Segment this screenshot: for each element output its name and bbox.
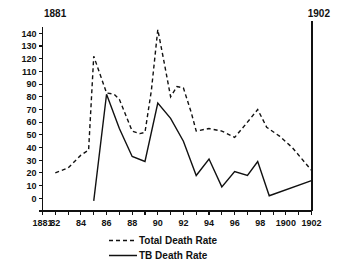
axes-group <box>43 21 312 211</box>
chart-container: 18811902 1401301201109080706050403020100… <box>0 0 344 278</box>
x-axis-tick-label: 82 <box>50 218 60 228</box>
corner-label-end-year: 1902 <box>308 8 331 19</box>
corner-labels-group: 18811902 <box>44 8 330 19</box>
y-axis-tick-label: 90 <box>26 79 36 89</box>
death-rate-line-chart: 18811902 1401301201109080706050403020100… <box>0 0 344 278</box>
y-axis-tick-label: 10 <box>26 181 36 191</box>
y-axis-tick-label: 80 <box>26 92 36 102</box>
x-axis-tick-label: 96 <box>230 218 240 228</box>
legend-label-tb-death-rate: TB Death Rate <box>139 250 208 261</box>
y-axis-ticks-group: 1401301201109080706050403020100 <box>21 29 42 211</box>
series-line-tb-death-rate <box>94 94 312 201</box>
chart-axes <box>43 27 312 211</box>
x-axis-ticks-group: 188182848688909294969819001902 <box>32 211 321 228</box>
x-axis-tick-label: 92 <box>178 218 188 228</box>
y-axis-tick-label: 70 <box>26 105 36 115</box>
x-axis-tick-label: 1900 <box>276 218 296 228</box>
series-line-total-death-rate <box>55 30 311 173</box>
x-axis-tick-label: 88 <box>127 218 137 228</box>
y-axis-tick-label: 120 <box>21 54 36 64</box>
x-axis-tick-label: 98 <box>255 218 265 228</box>
y-axis-tick-label: 50 <box>26 130 36 140</box>
chart-legend: Total Death RateTB Death Rate <box>109 235 218 261</box>
x-axis-tick-label: 90 <box>153 218 163 228</box>
y-axis-tick-label: 110 <box>22 67 37 77</box>
y-axis-tick-label: 60 <box>26 117 36 127</box>
y-axis-tick-label: 0 <box>31 194 36 204</box>
corner-label-start-year: 1881 <box>44 8 67 19</box>
legend-label-total-death-rate: Total Death Rate <box>139 235 218 246</box>
x-axis-tick-label: 86 <box>102 218 112 228</box>
y-axis-tick-label: 30 <box>26 156 36 166</box>
y-axis-tick-label: 40 <box>26 143 36 153</box>
x-axis-tick-label: 84 <box>76 218 86 228</box>
x-axis-tick-label: 1902 <box>301 218 321 228</box>
x-axis-tick-label: 94 <box>204 218 214 228</box>
y-axis-tick-label: 130 <box>21 41 36 51</box>
y-axis-tick-label: 20 <box>26 168 36 178</box>
series-group <box>55 30 311 201</box>
y-axis-tick-label: 140 <box>21 29 36 39</box>
